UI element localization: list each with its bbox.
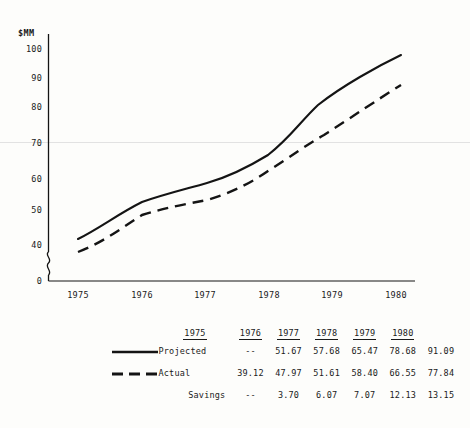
year-header-label: 1980 bbox=[391, 328, 414, 340]
table-header-1979: 1979 bbox=[346, 318, 384, 340]
row-label-projected: Projected bbox=[158, 340, 231, 362]
cell-actual-1979: 66.55 bbox=[384, 362, 422, 384]
table-row: Savings -- 3.70 6.07 7.07 12.13 13.15 bbox=[60, 384, 460, 406]
row-label-savings: Savings bbox=[158, 384, 231, 406]
y-axis-break-squiggle bbox=[47, 252, 50, 275]
table-row: Actual 39.12 47.97 51.61 58.40 66.55 77.… bbox=[60, 362, 460, 384]
table-header-1977: 1977 bbox=[270, 318, 308, 340]
table-header-blank bbox=[60, 318, 158, 340]
legend-swatch-savings-none bbox=[60, 384, 158, 406]
row-label-actual: Actual bbox=[158, 362, 231, 384]
cell-savings-1976: 3.70 bbox=[270, 384, 308, 406]
chart-page: $MM 100 90 80 70 60 50 40 0 1975 1976 19… bbox=[0, 0, 470, 428]
chart-plot-svg bbox=[0, 0, 470, 312]
cell-projected-1978: 65.47 bbox=[346, 340, 384, 362]
series-line-projected bbox=[78, 55, 401, 239]
legend-swatch-projected bbox=[60, 340, 158, 362]
cell-actual-1975: 39.12 bbox=[231, 362, 269, 384]
year-header-label: 1979 bbox=[353, 328, 376, 340]
table-header-row: 1975 1976 1977 1978 1979 1980 bbox=[60, 318, 460, 340]
table-header-1978: 1978 bbox=[308, 318, 346, 340]
cell-actual-1977: 51.61 bbox=[308, 362, 346, 384]
cell-savings-1975: -- bbox=[231, 384, 269, 406]
cell-projected-1979: 78.68 bbox=[384, 340, 422, 362]
table-row: Projected -- 51.67 57.68 65.47 78.68 91.… bbox=[60, 340, 460, 362]
data-table: 1975 1976 1977 1978 1979 1980 Projected … bbox=[60, 318, 460, 406]
year-header-label: 1976 bbox=[239, 328, 262, 340]
cell-actual-1976: 47.97 bbox=[270, 362, 308, 384]
cell-savings-1977: 6.07 bbox=[308, 384, 346, 406]
year-header-label: 1975 bbox=[183, 328, 206, 340]
cell-projected-1977: 57.68 bbox=[308, 340, 346, 362]
line-chart: $MM 100 90 80 70 60 50 40 0 1975 1976 19… bbox=[0, 0, 470, 312]
year-header-label: 1977 bbox=[277, 328, 300, 340]
cell-actual-1980: 77.84 bbox=[422, 362, 460, 384]
cell-projected-1975: -- bbox=[231, 340, 269, 362]
table-header-1975: 1975 bbox=[158, 318, 231, 340]
cell-savings-1979: 12.13 bbox=[384, 384, 422, 406]
solid-line-swatch-icon bbox=[112, 348, 158, 356]
legend-swatch-actual bbox=[60, 362, 158, 384]
cell-projected-1980: 91.09 bbox=[422, 340, 460, 362]
cell-projected-1976: 51.67 bbox=[270, 340, 308, 362]
table-header-1980: 1980 bbox=[384, 318, 422, 340]
cell-savings-1978: 7.07 bbox=[346, 384, 384, 406]
series-line-actual bbox=[78, 85, 401, 252]
table-header-1976: 1976 bbox=[231, 318, 269, 340]
dashed-line-swatch-icon bbox=[112, 370, 158, 378]
cell-actual-1978: 58.40 bbox=[346, 362, 384, 384]
cell-savings-1980: 13.15 bbox=[422, 384, 460, 406]
year-header-label: 1978 bbox=[315, 328, 338, 340]
